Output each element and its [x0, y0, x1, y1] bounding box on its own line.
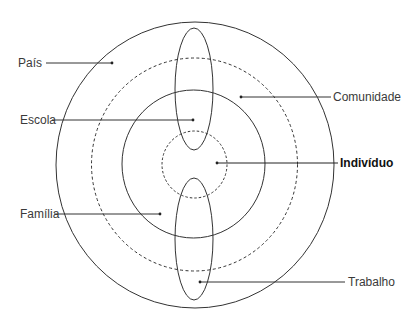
- callout-pais: País: [18, 56, 113, 70]
- label-comunidade: Comunidade: [333, 90, 401, 104]
- ring-individuo: [162, 131, 227, 198]
- callout-trabalho: Trabalho: [199, 275, 396, 289]
- label-trabalho: Trabalho: [348, 275, 395, 289]
- callout-comunidade: Comunidade: [240, 90, 402, 104]
- label-escola: Escola: [20, 113, 56, 127]
- label-individuo: Indivíduo: [340, 156, 393, 170]
- label-familia: Família: [20, 207, 60, 221]
- concentric-diagram: País Escola Família Comunidade Indivíduo…: [0, 0, 408, 329]
- ring-familia: [122, 90, 265, 238]
- label-pais: País: [18, 56, 42, 70]
- callout-individuo: Indivíduo: [216, 156, 394, 170]
- callout-escola: Escola: [20, 113, 194, 127]
- callout-familia: Família: [20, 207, 161, 221]
- ring-pais: [56, 22, 334, 308]
- ellipse-escola: [175, 28, 213, 150]
